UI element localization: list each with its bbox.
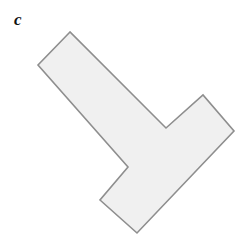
shape-canvas xyxy=(0,0,242,245)
figure-panel: c xyxy=(0,0,242,245)
chevron-polygon xyxy=(38,32,234,233)
